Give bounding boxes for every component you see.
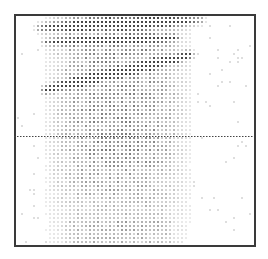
dot-density-plot bbox=[0, 0, 268, 259]
